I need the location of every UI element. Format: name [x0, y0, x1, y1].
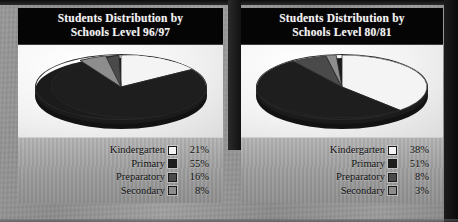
legend-value-kindergarten: 38% [399, 143, 429, 157]
legend-value-preparatory: 16% [179, 170, 209, 184]
legend-row-primary: Primary 51% [330, 157, 429, 171]
pie-plot-area-96-97 [18, 45, 223, 137]
page-edge-right [444, 0, 458, 222]
legend-value-kindergarten: 21% [179, 143, 209, 157]
legend-value-primary: 51% [399, 157, 429, 171]
pie-slices-80-81 [257, 55, 427, 119]
pie-face-80-81 [256, 54, 428, 120]
chart-legend-80-81: Kindergarten 38% Primary 51% Preparatory… [241, 137, 443, 203]
page-gutter [228, 0, 241, 150]
chart-title-line1: Students Distribution by [279, 12, 405, 24]
chart-title-line1: Students Distribution by [58, 12, 184, 24]
legend-label-kindergarten: Kindergarten [330, 143, 385, 157]
scanned-page: Students Distribution by Schools Level 9… [0, 0, 458, 222]
legend-label-kindergarten: Kindergarten [110, 143, 165, 157]
chart-title-96-97: Students Distribution by Schools Level 9… [18, 8, 223, 45]
pie-chart-80-81 [253, 45, 431, 137]
chart-title-80-81: Students Distribution by Schools Level 8… [241, 8, 443, 45]
legend-label-preparatory: Preparatory [110, 170, 165, 184]
pie-plot-area-80-81 [241, 45, 443, 137]
legend-row-preparatory: Preparatory 16% [110, 170, 209, 184]
legend-value-primary: 55% [179, 157, 209, 171]
legend-swatch-secondary [385, 184, 399, 198]
legend-swatch-secondary [165, 184, 179, 198]
legend-label-secondary: Secondary [330, 184, 385, 198]
pie-face-96-97 [35, 54, 207, 120]
legend-swatch-primary [385, 157, 399, 171]
chart-title-line2: Schools Level 96/97 [20, 26, 221, 40]
pie-slices-96-97 [36, 55, 206, 119]
chart-panel-80-81: Students Distribution by Schools Level 8… [241, 8, 443, 203]
legend-row-kindergarten: Kindergarten 21% [110, 143, 209, 157]
legend-row-primary: Primary 55% [110, 157, 209, 171]
legend-swatch-preparatory [385, 170, 399, 184]
legend-row-secondary: Secondary 8% [110, 184, 209, 198]
legend-label-primary: Primary [110, 157, 165, 171]
legend-row-kindergarten: Kindergarten 38% [330, 143, 429, 157]
legend-swatch-kindergarten [385, 143, 399, 157]
legend-value-secondary: 3% [399, 184, 429, 198]
legend-label-primary: Primary [330, 157, 385, 171]
chart-panel-96-97: Students Distribution by Schools Level 9… [18, 8, 223, 203]
legend-value-secondary: 8% [179, 184, 209, 198]
legend-swatch-primary [165, 157, 179, 171]
legend-row-secondary: Secondary 3% [330, 184, 429, 198]
chart-title-line2: Schools Level 80/81 [243, 26, 441, 40]
legend-value-preparatory: 8% [399, 170, 429, 184]
legend-swatch-kindergarten [165, 143, 179, 157]
legend-row-preparatory: Preparatory 8% [330, 170, 429, 184]
legend-label-preparatory: Preparatory [330, 170, 385, 184]
legend-swatch-preparatory [165, 170, 179, 184]
legend-label-secondary: Secondary [110, 184, 165, 198]
pie-chart-96-97 [32, 45, 210, 137]
page-edge-bottom [0, 219, 458, 222]
chart-legend-96-97: Kindergarten 21% Primary 55% Preparatory… [18, 137, 223, 203]
